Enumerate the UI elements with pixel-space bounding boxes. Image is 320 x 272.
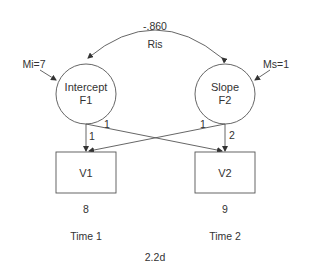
slope-factor-code: F2 xyxy=(211,94,239,107)
loading-label-f2-v2: 2 xyxy=(229,129,235,141)
slope-mean-label: Ms=1 xyxy=(263,58,289,70)
observed-value-v1: 8 xyxy=(83,203,89,215)
time-label-1: Time 1 xyxy=(70,230,102,242)
intercept-factor: Intercept F1 xyxy=(65,81,108,107)
mean-arrow-slope xyxy=(255,70,270,80)
observed-value-v2: 9 xyxy=(222,203,228,215)
figure-label: 2.2d xyxy=(145,251,165,263)
time-label-2: Time 2 xyxy=(209,230,241,242)
loading-label-f2-v1: 1 xyxy=(200,118,206,130)
covariance-label: Ris xyxy=(147,38,162,50)
loading-label-f1-v2: 1 xyxy=(104,118,110,130)
observed-label-v2: V2 xyxy=(218,167,231,180)
covariance-value: -.860 xyxy=(143,20,167,32)
slope-factor: Slope F2 xyxy=(211,81,239,107)
loading-label-f1-v1: 1 xyxy=(89,130,95,142)
intercept-factor-code: F1 xyxy=(65,94,108,107)
intercept-factor-name: Intercept xyxy=(65,81,108,94)
observed-label-v1: V1 xyxy=(79,167,92,180)
intercept-mean-label: Mi=7 xyxy=(22,58,45,70)
slope-factor-name: Slope xyxy=(211,81,239,94)
mean-arrow-intercept xyxy=(40,70,56,80)
